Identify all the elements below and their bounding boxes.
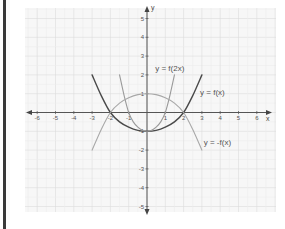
x-tick-label: -5 [53,115,59,121]
x-tick-label: -3 [89,115,95,121]
x-tick-label: -6 [35,115,41,121]
label-negative-f-of-x: y = -f(x) [204,138,232,147]
x-tick-label: -4 [71,115,77,121]
label-f-of-x: y = f(x) [200,88,225,97]
function-transformation-chart: xy-6-5-4-3-2-1123456-5-4-3-2-112345 y = … [0,0,285,229]
grid-lines [25,8,276,212]
y-tick-label: -2 [139,147,145,153]
x-axis-label: x [266,115,270,122]
y-axis-label: y [151,4,155,12]
label-f-of-2x: y = f(2x) [155,64,184,73]
y-tick-label: -3 [139,166,145,172]
y-tick-label: -5 [139,204,145,210]
y-tick-label: -4 [139,185,145,191]
